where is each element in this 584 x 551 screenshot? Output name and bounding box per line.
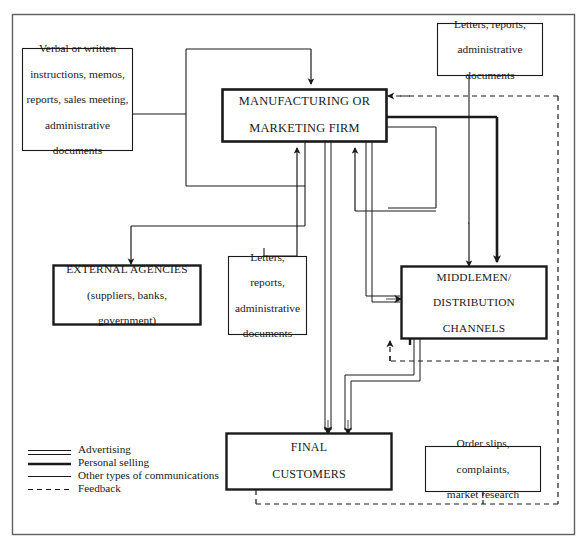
- connector-advertising-middlemen-to-customers: [345, 338, 420, 430]
- legend-label-advertising: Advertising: [78, 444, 131, 456]
- box-verbal-instructions: [23, 49, 133, 151]
- diagram-canvas: Verbal or written instructions, memos, r…: [0, 0, 584, 551]
- box-middlemen: [402, 267, 547, 339]
- legend-label-personal-selling: Personal selling: [78, 457, 149, 469]
- connector-advertising-firm-to-middlemen: [366, 142, 400, 302]
- box-external-agencies: [54, 266, 201, 325]
- legend-label-feedback: Feedback: [78, 483, 121, 495]
- connector-letters-top-down: [468, 76, 469, 223]
- box-final-customers: [227, 434, 392, 490]
- connector-feedback-middlemen: [390, 355, 558, 361]
- connector-firm-to-external-agencies: [131, 186, 305, 226]
- connector-advertising-firm-to-customers: [325, 142, 331, 430]
- box-letters-reports-mid: [229, 257, 307, 335]
- legend-line-advertising: [28, 451, 71, 455]
- box-manufacturing-firm: [223, 90, 387, 142]
- box-letters-reports-top: [438, 24, 543, 76]
- legend-label-other-communications: Other types of communications: [78, 470, 219, 482]
- box-order-slips: [426, 447, 541, 492]
- connector-firm-right-thin: [386, 127, 436, 208]
